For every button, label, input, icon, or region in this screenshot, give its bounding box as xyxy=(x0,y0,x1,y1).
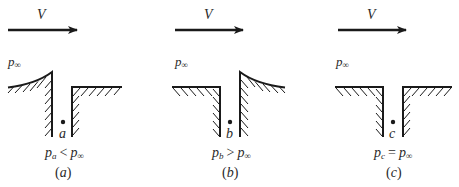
operator: > xyxy=(224,145,238,160)
panel-letter: a xyxy=(60,165,67,180)
freestream-pressure-label-b: p∞ xyxy=(175,55,188,70)
freestream-pressure-label-a: p∞ xyxy=(8,55,21,70)
point-label-c: c xyxy=(389,127,395,141)
point-label-a: a xyxy=(59,127,66,141)
velocity-label-a: V xyxy=(37,8,46,22)
pressure-condition-a: pa<p∞ xyxy=(45,146,84,161)
rhs-sub: ∞ xyxy=(77,151,83,161)
panel-label-c: (c) xyxy=(386,166,402,180)
pressure-point-b xyxy=(228,120,232,124)
panel-c xyxy=(335,30,452,137)
rhs-sub: ∞ xyxy=(406,151,412,161)
rhs-sub: ∞ xyxy=(244,151,250,161)
lhs: p xyxy=(374,145,381,160)
infinity-subscript: ∞ xyxy=(15,60,21,70)
panel-label-a: (a) xyxy=(55,166,71,180)
pressure-condition-b: pb>p∞ xyxy=(212,146,251,161)
velocity-label-c: V xyxy=(367,8,376,22)
infinity-subscript: ∞ xyxy=(182,60,188,70)
rhs: p xyxy=(399,145,406,160)
panel-letter: b xyxy=(227,165,234,180)
velocity-label-b: V xyxy=(204,8,213,22)
panel-label-b: (b) xyxy=(222,166,238,180)
freestream-pressure-label-c: p∞ xyxy=(336,55,349,70)
pressure-condition-c: pc=p∞ xyxy=(374,146,412,161)
operator: < xyxy=(57,145,71,160)
hatching-left xyxy=(336,88,382,136)
lhs: p xyxy=(212,145,219,160)
infinity-subscript: ∞ xyxy=(343,60,349,70)
panel-a xyxy=(8,30,122,137)
point-label-b: b xyxy=(226,127,233,141)
operator: = xyxy=(385,145,399,160)
lhs: p xyxy=(45,145,52,160)
hatching-left xyxy=(173,88,219,136)
lhs-sub: a xyxy=(52,151,57,161)
pressure-point-a xyxy=(61,120,65,124)
panel-b xyxy=(172,30,285,137)
lhs-sub: b xyxy=(219,151,224,161)
hatching-right xyxy=(404,88,451,135)
pressure-point-c xyxy=(391,120,395,124)
hatching-right xyxy=(73,88,120,135)
